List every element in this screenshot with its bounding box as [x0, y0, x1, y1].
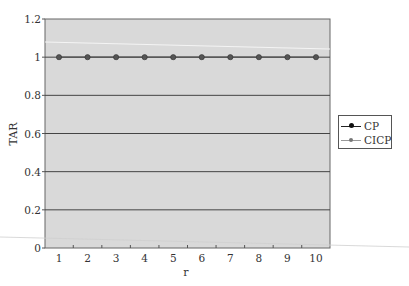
data-point: [171, 55, 176, 60]
line-marker-icon: [341, 121, 361, 131]
y-tick-label: 0.4: [24, 166, 41, 178]
x-tick-label: 6: [198, 252, 205, 264]
data-point: [114, 55, 119, 60]
y-axis-label: TAR: [7, 122, 20, 146]
legend-item-cicp: CICP: [341, 133, 391, 147]
data-point: [85, 55, 90, 60]
x-tick-label: 9: [284, 252, 291, 264]
y-tick-label: 1.2: [24, 13, 41, 25]
data-point: [313, 55, 318, 60]
x-tick-label: 7: [227, 252, 234, 264]
x-tick-label: 10: [309, 252, 322, 264]
legend: CP CICP: [338, 115, 392, 149]
line-marker-icon: [341, 135, 361, 145]
data-point: [228, 55, 233, 60]
x-axis-label: r: [183, 266, 189, 279]
y-tick-label: 0.6: [24, 128, 41, 140]
data-point: [142, 55, 147, 60]
y-tick-label: 0.2: [24, 204, 41, 216]
data-point: [199, 55, 204, 60]
x-tick-label: 5: [170, 252, 177, 264]
x-tick-label: 2: [84, 252, 91, 264]
x-tick-label: 3: [113, 252, 120, 264]
x-tick-label: 4: [141, 252, 148, 264]
y-tick-label: 1: [34, 51, 41, 63]
legend-label: CICP: [364, 134, 391, 146]
legend-label: CP: [364, 120, 379, 132]
x-tick-label: 1: [56, 252, 63, 264]
y-tick-label: 0: [34, 242, 41, 254]
y-tick-label: 0.8: [24, 89, 41, 101]
legend-item-cp: CP: [341, 119, 379, 133]
data-point: [285, 55, 290, 60]
data-point: [256, 55, 261, 60]
data-point: [56, 55, 61, 60]
x-tick-label: 8: [256, 252, 263, 264]
